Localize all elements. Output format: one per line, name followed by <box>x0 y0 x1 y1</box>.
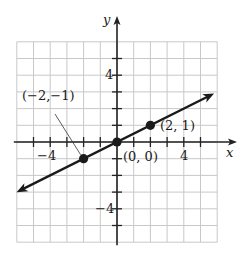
leader-line <box>55 114 81 155</box>
y-tick-label-neg4: −4 <box>95 201 114 216</box>
x-tick-label-neg4: −4 <box>37 148 56 163</box>
axes <box>14 16 237 245</box>
data-point <box>79 154 88 163</box>
coordinate-plane-figure: y x −4 4 4 −4 (−2,−1) (0, 0) (2, 1) <box>0 0 250 262</box>
point-label-origin: (0, 0) <box>123 149 158 164</box>
point-label-2-1: (2, 1) <box>160 118 195 133</box>
x-axis-label: x <box>226 145 234 160</box>
data-point <box>112 137 121 146</box>
x-tick-label-4: 4 <box>180 148 188 163</box>
y-tick-label-4: 4 <box>105 67 113 82</box>
graph-svg: y x −4 4 4 −4 (−2,−1) (0, 0) (2, 1) <box>0 0 250 262</box>
y-axis-label: y <box>102 12 111 27</box>
point-label-neg2-neg1: (−2,−1) <box>22 88 75 103</box>
data-point <box>146 121 155 130</box>
